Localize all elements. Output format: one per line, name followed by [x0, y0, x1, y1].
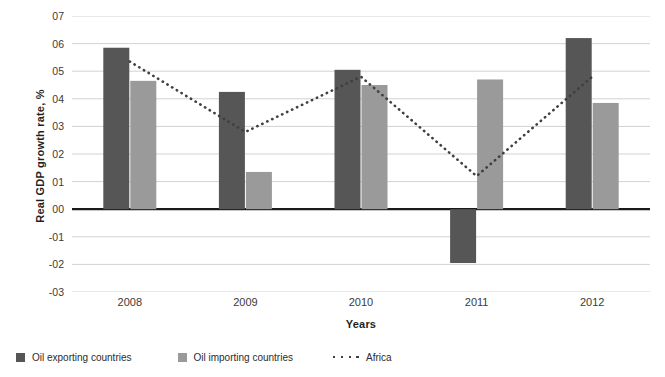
bar — [593, 103, 619, 209]
y-tick-label: 06 — [34, 38, 64, 50]
legend-swatch-icon — [16, 353, 25, 362]
bar — [362, 85, 388, 209]
legend-item[interactable]: Oil exporting countries — [16, 352, 132, 363]
bar — [477, 79, 503, 209]
y-tick-label: 03 — [34, 120, 64, 132]
africa-dotted-line — [130, 62, 592, 177]
bar — [335, 70, 361, 209]
y-tick-label: -03 — [34, 286, 64, 298]
legend-item[interactable]: Africa — [333, 352, 392, 363]
x-axis-title: Years — [72, 318, 650, 330]
x-tick-label: 2012 — [562, 296, 622, 308]
x-axis-tick-labels: 20082009201020112012 — [72, 296, 650, 314]
y-tick-label: 01 — [34, 176, 64, 188]
y-tick-label: 04 — [34, 93, 64, 105]
chart-legend: Oil exporting countriesOil importing cou… — [16, 348, 392, 366]
x-tick-label: 2009 — [215, 296, 275, 308]
x-tick-label: 2010 — [331, 296, 391, 308]
legend-label: Oil importing countries — [194, 352, 293, 363]
plot-area — [72, 16, 650, 292]
bar — [130, 81, 156, 209]
series-layer — [72, 16, 650, 292]
bar — [219, 92, 245, 209]
x-tick-label: 2011 — [447, 296, 507, 308]
y-tick-label: 00 — [34, 203, 64, 215]
y-tick-label: 07 — [34, 10, 64, 22]
y-tick-label: 05 — [34, 65, 64, 77]
bar — [450, 209, 476, 263]
legend-label: Oil exporting countries — [32, 352, 132, 363]
bar — [103, 48, 129, 209]
y-tick-label: -02 — [34, 258, 64, 270]
x-tick-label: 2008 — [100, 296, 160, 308]
bar — [566, 38, 592, 209]
legend-item[interactable]: Oil importing countries — [178, 352, 293, 363]
gdp-growth-chart: Real GDP growth rate, % 0706050403020100… — [0, 0, 665, 377]
legend-label: Africa — [366, 352, 392, 363]
y-tick-label: -01 — [34, 231, 64, 243]
dotted-line-icon — [333, 353, 359, 362]
y-axis-tick-labels: 0706050403020100-01-02-03 — [30, 16, 64, 292]
bar — [246, 172, 272, 209]
y-tick-label: 02 — [34, 148, 64, 160]
legend-swatch-icon — [178, 353, 187, 362]
